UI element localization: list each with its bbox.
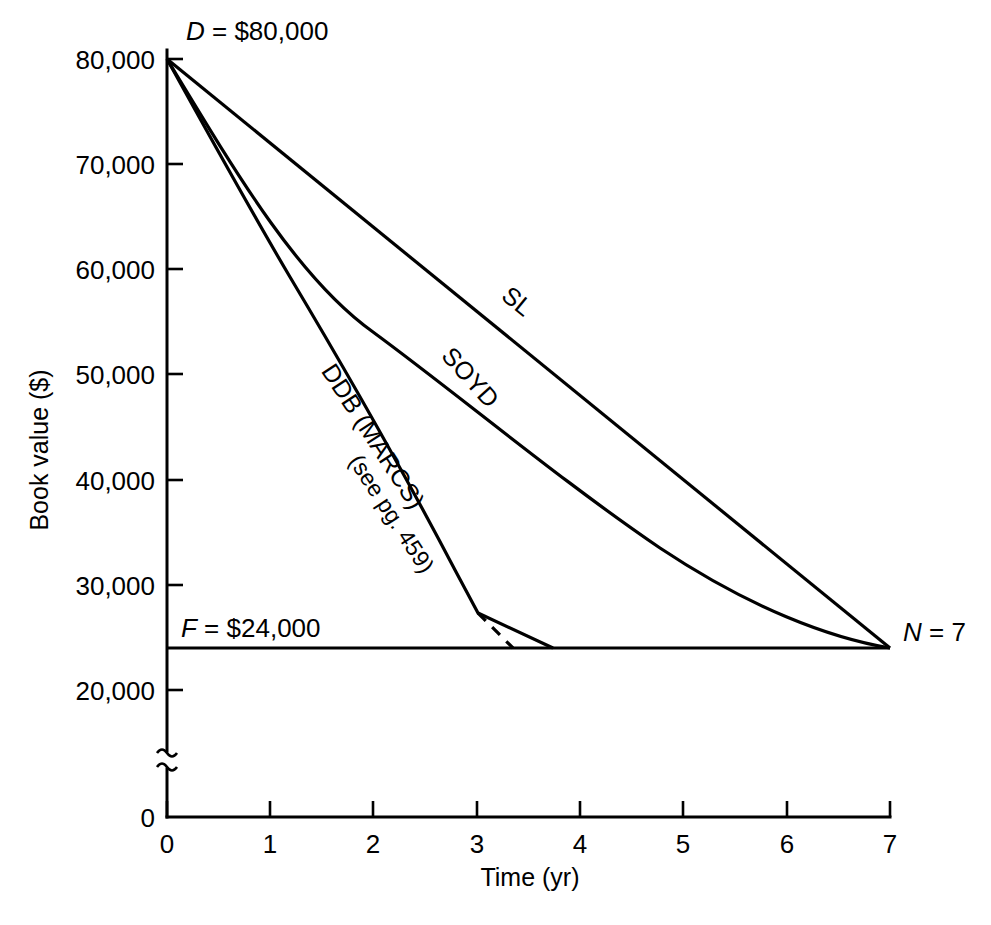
x-tick-label-6: 6 xyxy=(780,829,794,859)
annotation-initial-cost-value: = $80,000 xyxy=(205,16,329,46)
x-tick-label-7: 7 xyxy=(883,829,897,859)
x-tick-label-3: 3 xyxy=(470,829,484,859)
x-tick-label-2: 2 xyxy=(366,829,380,859)
x-axis-title: Time (yr) xyxy=(480,863,579,891)
series-ddb-dashed-extension xyxy=(478,613,513,648)
x-tick-label-4: 4 xyxy=(573,829,587,859)
chart-canvas: 80,000 70,000 60,000 50,000 40,000 30,00… xyxy=(0,0,991,925)
x-tick-label-1: 1 xyxy=(263,829,277,859)
x-tick-label-0: 0 xyxy=(160,829,174,859)
y-tick-label-40000: 40,000 xyxy=(75,466,155,496)
y-tick-label-70000: 70,000 xyxy=(75,150,155,180)
y-tick-label-50000: 50,000 xyxy=(75,360,155,390)
y-tick-label-0: 0 xyxy=(141,803,155,833)
series-ddb-curve xyxy=(167,59,553,648)
annotation-salvage-value-value: = $24,000 xyxy=(197,613,321,643)
x-axis-tick-labels: 0 1 2 3 4 5 6 7 xyxy=(160,829,897,859)
series-sl-line xyxy=(167,59,890,648)
annotation-life-end-symbol: N xyxy=(903,617,922,647)
y-tick-label-60000: 60,000 xyxy=(75,255,155,285)
annotation-salvage-value: F = $24,000 xyxy=(181,613,321,643)
x-axis-ticks xyxy=(167,801,890,817)
y-tick-label-20000: 20,000 xyxy=(75,676,155,706)
x-tick-label-5: 5 xyxy=(676,829,690,859)
y-axis-ticks xyxy=(167,59,183,690)
annotation-life-end-value: = 7 xyxy=(922,617,966,647)
y-tick-label-30000: 30,000 xyxy=(75,571,155,601)
series-label-sl: SL xyxy=(497,280,538,321)
y-axis-title: Book value ($) xyxy=(25,369,53,530)
figure-book-value-depreciation: 80,000 70,000 60,000 50,000 40,000 30,00… xyxy=(0,0,991,925)
series-label-soyd: SOYD xyxy=(437,341,505,412)
annotation-initial-cost: D = $80,000 xyxy=(186,16,328,46)
annotation-life-end: N = 7 xyxy=(903,617,966,647)
y-axis-tick-labels: 80,000 70,000 60,000 50,000 40,000 30,00… xyxy=(75,45,155,833)
y-tick-label-80000: 80,000 xyxy=(75,45,155,75)
annotation-initial-cost-symbol: D xyxy=(186,16,205,46)
